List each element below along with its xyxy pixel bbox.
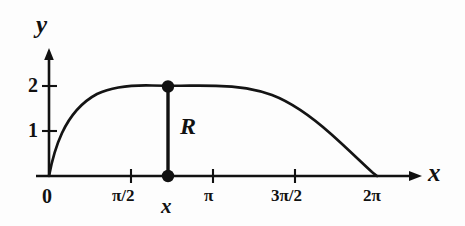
x-tick-label-0: 0 [42, 186, 52, 206]
x-tick-label-pi: π [204, 187, 213, 204]
x-axis-arrowhead [409, 171, 422, 181]
x-tick-label-3pi-over-2: 3π/2 [271, 187, 302, 204]
axis-point-marker [162, 170, 174, 182]
plot-canvas [0, 0, 465, 226]
point-label-x: x [161, 196, 172, 217]
y-axis-label: y [36, 12, 47, 37]
y-tick-label-1: 1 [28, 120, 38, 140]
curve-path [49, 85, 377, 176]
y-axis-arrowhead [44, 48, 54, 60]
region-label-R: R [180, 114, 196, 138]
y-tick-label-2: 2 [28, 75, 38, 95]
x-tick-label-pi-over-2: π/2 [112, 187, 135, 204]
x-axis-label: x [428, 160, 441, 185]
curve-point-marker [162, 80, 174, 92]
figure-container: y x 2 1 0 π/2 π 3π/2 2π x R [0, 0, 465, 226]
x-tick-label-2pi: 2π [363, 187, 381, 204]
